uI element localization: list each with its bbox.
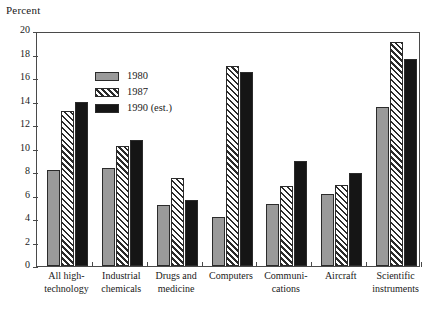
y-axis-tick-label: 16 [20, 72, 30, 82]
bar-group [212, 33, 253, 266]
x-axis-tick [202, 262, 203, 267]
x-axis-labels: All high- technologyIndustrial chemicals… [36, 270, 420, 309]
bar-group [266, 33, 307, 266]
bar-1990-est- [349, 173, 362, 266]
bar-1980 [157, 205, 170, 266]
legend-swatch-1987-icon [95, 88, 119, 97]
y-axis-tick-label: 20 [20, 25, 30, 35]
bar-1990-est- [185, 200, 198, 266]
y-axis-tick-label: 4 [25, 213, 30, 223]
y-axis-tick-label: 10 [20, 143, 30, 153]
x-axis-label: Industrial chemicals [90, 270, 153, 295]
bar-1980 [266, 204, 279, 266]
x-axis-label: Communi- cations [254, 270, 317, 295]
y-axis-title: Percent [6, 4, 40, 16]
x-axis-tick [311, 262, 312, 267]
x-axis-label: Scientific instruments [364, 270, 427, 295]
x-axis-tick [147, 262, 148, 267]
bar-1987 [390, 42, 403, 266]
bar-group [102, 33, 143, 266]
legend-label-1987: 1987 [127, 87, 148, 98]
legend-swatch-1980-icon [95, 72, 119, 81]
bar-1987 [226, 66, 239, 266]
y-axis-tick-label: 12 [20, 119, 30, 129]
x-axis-tick [92, 262, 93, 267]
bar-group [376, 33, 417, 266]
x-axis-label: Computers [200, 270, 263, 283]
legend-item-1980: 1980 [95, 69, 220, 84]
bar-group [157, 33, 198, 266]
bar-1987 [61, 111, 74, 266]
bar-1990-est- [404, 59, 417, 266]
bar-1980 [47, 170, 60, 266]
x-axis-label: Drugs and medicine [145, 270, 208, 295]
bar-1980 [321, 194, 334, 266]
plot-area: 02468101214161820 1980 1987 1990 (est.) [36, 32, 420, 267]
bar-1987 [171, 178, 184, 266]
y-axis-tick-label: 8 [25, 166, 30, 176]
bar-1990-est- [75, 102, 88, 267]
legend-item-1987: 1987 [95, 85, 220, 100]
legend-label-1990: 1990 (est.) [127, 103, 172, 114]
bar-1980 [102, 168, 115, 266]
bar-1980 [212, 217, 225, 266]
tick-mark [33, 267, 38, 268]
bar-1980 [376, 107, 389, 266]
y-axis-tick-label: 0 [25, 260, 30, 270]
legend-label-1980: 1980 [127, 71, 148, 82]
x-axis-tick [366, 262, 367, 267]
bar-1987 [116, 146, 129, 266]
legend-swatch-1990-icon [95, 104, 119, 113]
y-axis-tick-label: 14 [20, 96, 30, 106]
chart-legend: 1980 1987 1990 (est.) [95, 69, 220, 117]
bar-1987 [280, 186, 293, 266]
bars-layer [37, 33, 419, 266]
bar-1990-est- [130, 140, 143, 266]
bar-1990-est- [240, 72, 253, 266]
bar-1990-est- [294, 161, 307, 266]
bar-group [321, 33, 362, 266]
bar-chart: Percent 02468101214161820 1980 1987 1990… [0, 0, 435, 309]
x-axis-tick [421, 262, 422, 267]
x-axis-tick [256, 262, 257, 267]
x-axis-label: Aircraft [309, 270, 372, 283]
y-axis-tick-label: 18 [20, 49, 30, 59]
y-axis-tick-label: 2 [25, 237, 30, 247]
bar-1987 [335, 185, 348, 266]
y-axis-tick-label: 6 [25, 190, 30, 200]
bar-group [47, 33, 88, 266]
x-axis-label: All high- technology [35, 270, 98, 295]
legend-item-1990: 1990 (est.) [95, 101, 220, 116]
